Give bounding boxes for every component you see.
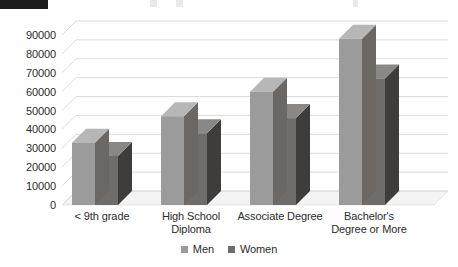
x-category-label-3-line-0: Bachelor's <box>314 210 424 223</box>
y-tick-label-30000: 30000 <box>12 143 56 154</box>
bar-men-3 <box>339 25 376 205</box>
x-category-label-1-line-1: Diploma <box>136 223 246 236</box>
y-tick-label-10000: 10000 <box>12 181 56 192</box>
x-category-label-3: Bachelor'sDegree or More <box>314 210 424 236</box>
legend-swatch-icon-women <box>228 246 235 253</box>
y-tick-label-70000: 70000 <box>12 68 56 79</box>
legend-entry-men[interactable]: Men <box>181 244 214 255</box>
x-category-label-3-line-1: Degree or More <box>314 223 424 236</box>
y-tick-label-40000: 40000 <box>12 124 56 135</box>
bar-chart: 9000080000700006000050000400003000020000… <box>0 0 458 267</box>
x-axis-category-labels: < 9th gradeHigh SchoolDiplomaAssociate D… <box>0 206 458 240</box>
y-tick-label-60000: 60000 <box>12 87 56 98</box>
legend-label-men: Men <box>193 244 214 255</box>
chart-legend: MenWomen <box>0 240 458 258</box>
y-tick-label-80000: 80000 <box>12 49 56 60</box>
legend-label-women: Women <box>240 244 277 255</box>
bar-men-2 <box>250 78 287 205</box>
bar-series-group <box>72 25 399 205</box>
bar-men-1 <box>161 102 198 205</box>
legend-swatch-icon-men <box>181 246 188 253</box>
y-tick-label-20000: 20000 <box>12 162 56 173</box>
y-tick-label-50000: 50000 <box>12 106 56 117</box>
legend-entry-women[interactable]: Women <box>228 244 277 255</box>
y-tick-label-90000: 90000 <box>12 30 56 41</box>
bar-men-0 <box>72 129 109 205</box>
